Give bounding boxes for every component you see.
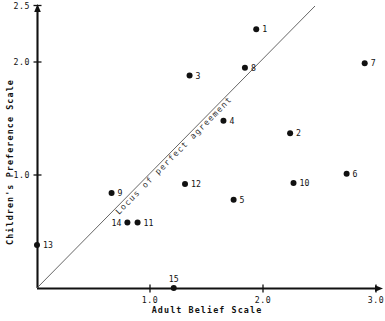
data-point-dot bbox=[291, 180, 297, 186]
scatter-plot-figure: 1.02.03.01.02.02.5 123456789101112131415… bbox=[0, 0, 385, 321]
y-axis-tick-label: 2.5 bbox=[13, 1, 30, 11]
data-point-dot bbox=[253, 26, 259, 32]
data-point-label: 7 bbox=[371, 58, 376, 68]
data-point-dot bbox=[124, 219, 130, 225]
data-point-label: 8 bbox=[251, 63, 256, 73]
data-point-label: 1 bbox=[262, 24, 267, 34]
y-axis-tick-label: 1.0 bbox=[13, 170, 30, 180]
data-point-label: 2 bbox=[296, 128, 301, 138]
data-point-dot bbox=[287, 130, 293, 136]
y-axis-tick-label: 2.0 bbox=[13, 57, 30, 67]
data-point-dot bbox=[242, 65, 248, 71]
data-point-label: 3 bbox=[196, 71, 201, 81]
y-axis-title: Children's Preference Scale bbox=[5, 79, 15, 245]
data-point-label: 12 bbox=[191, 179, 201, 189]
locus-annotation-label: Locus of perfect agreement bbox=[113, 94, 234, 216]
data-point-dot bbox=[171, 285, 177, 291]
data-point-dot bbox=[231, 197, 237, 203]
data-point-dot bbox=[135, 219, 141, 225]
data-point-label: 5 bbox=[240, 195, 245, 205]
data-point-dot bbox=[344, 171, 350, 177]
data-point-label: 4 bbox=[229, 116, 234, 126]
x-axis-tick-label: 1.0 bbox=[142, 295, 159, 305]
data-point-dot bbox=[34, 242, 40, 248]
data-point-label: 11 bbox=[144, 218, 154, 228]
axes-group bbox=[34, 4, 383, 292]
axis-ticks-group: 1.02.03.01.02.02.5 bbox=[13, 1, 384, 305]
data-point-label: 13 bbox=[43, 240, 53, 250]
annotation-text-group: Locus of perfect agreement bbox=[113, 94, 234, 216]
x-axis-tick-label: 2.0 bbox=[255, 295, 272, 305]
data-points-group: 123456789101112131415 bbox=[34, 24, 376, 291]
data-point-dot bbox=[109, 190, 115, 196]
data-point-dot bbox=[220, 118, 226, 124]
data-point-label: 10 bbox=[300, 178, 310, 188]
data-point-label: 6 bbox=[353, 169, 358, 179]
x-axis-title: Adult Belief Scale bbox=[152, 305, 263, 315]
plot-canvas: 1.02.03.01.02.02.5 123456789101112131415… bbox=[0, 0, 385, 321]
data-point-label: 9 bbox=[118, 188, 123, 198]
data-point-dot bbox=[182, 181, 188, 187]
data-point-dot bbox=[362, 60, 368, 66]
data-point-label: 14 bbox=[112, 218, 122, 228]
data-point-dot bbox=[187, 73, 193, 79]
x-axis-tick-label: 3.0 bbox=[368, 295, 385, 305]
data-point-label: 15 bbox=[169, 274, 179, 284]
